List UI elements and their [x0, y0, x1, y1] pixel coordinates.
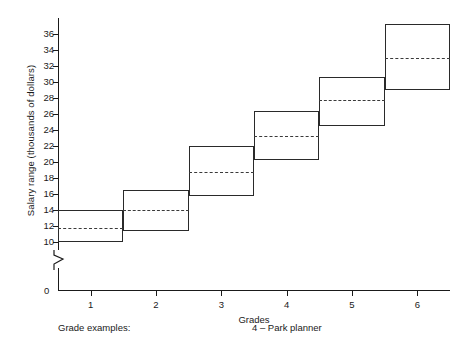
y-tick-label: 12 — [43, 221, 54, 231]
x-tick-label-2: 2 — [153, 299, 158, 310]
salary-midpoint-grade-4 — [254, 136, 319, 137]
y-tick-label: 22 — [43, 141, 54, 151]
axis-break-icon — [53, 250, 65, 270]
y-axis-origin-label: 0 — [44, 285, 49, 296]
y-tick-label: 32 — [43, 61, 54, 71]
y-tick-label: 34 — [43, 45, 54, 55]
salary-box-grade-1 — [58, 210, 123, 242]
x-tick-mark-2 — [156, 290, 157, 296]
salary-midpoint-grade-5 — [319, 100, 384, 101]
x-tick-label-5: 5 — [349, 299, 354, 310]
x-tick-mark-3 — [221, 290, 222, 296]
footer: Grade examples: 4 – Park planner — [0, 322, 460, 342]
salary-midpoint-grade-6 — [385, 58, 450, 59]
y-tick-label: 28 — [43, 93, 54, 103]
y-tick-label: 30 — [43, 77, 54, 87]
x-tick-mark-5 — [352, 290, 353, 296]
x-tick-label-6: 6 — [415, 299, 420, 310]
x-tick-mark-6 — [417, 290, 418, 296]
grade-example-entry: 4 – Park planner — [252, 322, 322, 333]
salary-box-grade-5 — [319, 77, 384, 126]
x-axis-line — [58, 290, 450, 291]
y-tick-label: 36 — [43, 29, 54, 39]
y-tick-label: 20 — [43, 157, 54, 167]
x-tick-label-1: 1 — [88, 299, 93, 310]
grade-examples-label: Grade examples: — [58, 322, 130, 333]
y-tick-label: 10 — [43, 237, 54, 247]
y-axis-line-lower — [58, 268, 59, 290]
y-tick-label: 26 — [43, 109, 54, 119]
x-tick-label-3: 3 — [219, 299, 224, 310]
y-tick-label: 24 — [43, 125, 54, 135]
x-tick-mark-1 — [91, 290, 92, 296]
plot-area: 0 1012141618202224262830323436 123456 Gr… — [58, 18, 450, 276]
y-tick-label: 14 — [43, 205, 54, 215]
salary-midpoint-grade-1 — [58, 228, 123, 229]
salary-midpoint-grade-3 — [189, 172, 254, 173]
x-tick-mark-4 — [287, 290, 288, 296]
salary-midpoint-grade-2 — [123, 210, 188, 211]
salary-range-chart: Salary range (thousands of dollars) 0 10… — [0, 0, 460, 346]
y-tick-label: 18 — [43, 173, 54, 183]
x-tick-label-4: 4 — [284, 299, 289, 310]
y-tick-label: 16 — [43, 189, 54, 199]
y-axis-label: Salary range (thousands of dollars) — [25, 31, 36, 251]
